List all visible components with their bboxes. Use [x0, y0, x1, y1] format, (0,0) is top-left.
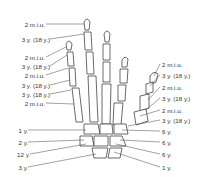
label-left-8: 1 y.: [18, 127, 28, 134]
label-right-8: 6 y.: [162, 151, 172, 158]
label-left-5: 3 y. (18 y.): [22, 82, 50, 89]
label-right-9: 1 y.: [162, 164, 172, 171]
label-right-7: 6 y.: [162, 139, 172, 146]
label-right-4: 2 m.i.u.: [162, 107, 182, 114]
label-left-11: 3 y.: [18, 164, 28, 171]
label-left-7: 2 m.i.u.: [25, 100, 45, 107]
label-right-5: 3 y. (18 y.): [162, 117, 190, 124]
label-right-3: 3 y. (18 y.): [162, 95, 190, 102]
label-left-9: 2 y.: [18, 139, 28, 146]
label-right-0: 2 m.i.u.: [162, 61, 182, 68]
label-left-6: 3 y. (18 y.): [22, 91, 50, 98]
label-left-1: 3 y. (18 y.): [22, 36, 50, 43]
label-left-2: 2 m.i.u.: [25, 54, 45, 61]
label-left-3: 3 y. (18 y.): [22, 63, 50, 70]
label-left-4: 2 m.i.u.: [25, 72, 45, 79]
label-right-2: 2 m.i.u.: [162, 84, 182, 91]
label-left-10: 12 y.: [17, 151, 30, 158]
label-right-6: 6 y.: [162, 128, 172, 135]
label-right-1: 3 y. (18 y.): [162, 72, 190, 79]
label-left-0: 2 m.i.u.: [25, 21, 45, 28]
